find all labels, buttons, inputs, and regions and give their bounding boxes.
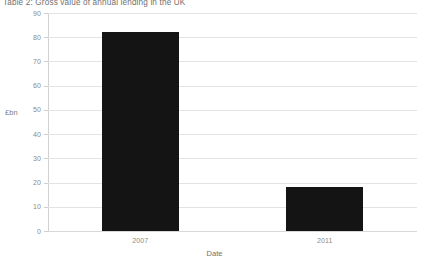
y-axis-tick-label: 50 (7, 106, 41, 113)
y-axis-tick-mark (44, 231, 48, 232)
y-axis-tick-label: 30 (7, 155, 41, 162)
y-axis-tick-label: 20 (7, 179, 41, 186)
gridline (48, 231, 417, 232)
y-axis-tick-labels: 0102030405060708090 (0, 0, 41, 264)
y-axis-tick-mark (44, 207, 48, 208)
x-axis-title: Date (0, 250, 429, 258)
y-axis-tick-mark (44, 37, 48, 38)
y-axis-tick-mark (44, 61, 48, 62)
y-axis-tick-mark (44, 158, 48, 159)
y-axis-tick-label: 90 (7, 10, 41, 17)
y-axis-tick-label: 0 (7, 228, 41, 235)
y-axis-tick-mark (44, 13, 48, 14)
y-axis-tick-mark (44, 134, 48, 135)
bar (102, 32, 179, 231)
y-axis-tick-label: 80 (7, 34, 41, 41)
x-axis-tick-label: 2007 (110, 237, 170, 245)
y-axis-tick-mark (44, 183, 48, 184)
y-axis-tick-mark (44, 110, 48, 111)
chart-title: Table 2: Gross value of annual lending i… (3, 0, 423, 7)
y-axis-tick-label: 70 (7, 58, 41, 65)
y-axis-tick-label: 40 (7, 131, 41, 138)
plot-area (48, 13, 417, 231)
x-axis-tick-label: 2011 (295, 237, 355, 245)
y-axis-tick-mark (44, 86, 48, 87)
bar (286, 187, 363, 231)
y-axis-tick-label: 10 (7, 203, 41, 210)
gridline (48, 13, 417, 14)
chart-figure: Table 2: Gross value of annual lending i… (0, 0, 429, 264)
y-axis-tick-label: 60 (7, 82, 41, 89)
